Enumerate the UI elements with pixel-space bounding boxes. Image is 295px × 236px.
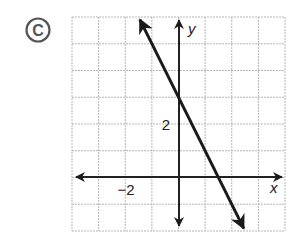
graph-figure: C y x −2 2 bbox=[0, 0, 295, 236]
axes bbox=[76, 20, 282, 226]
graph-svg: C y x −2 2 bbox=[0, 0, 295, 236]
x-tick-label: −2 bbox=[117, 181, 134, 198]
option-marker: C bbox=[27, 19, 50, 42]
y-axis-label: y bbox=[187, 20, 197, 37]
option-letter: C bbox=[32, 22, 44, 39]
y-tick-label: 2 bbox=[162, 116, 170, 133]
x-axis-label: x bbox=[269, 179, 278, 196]
